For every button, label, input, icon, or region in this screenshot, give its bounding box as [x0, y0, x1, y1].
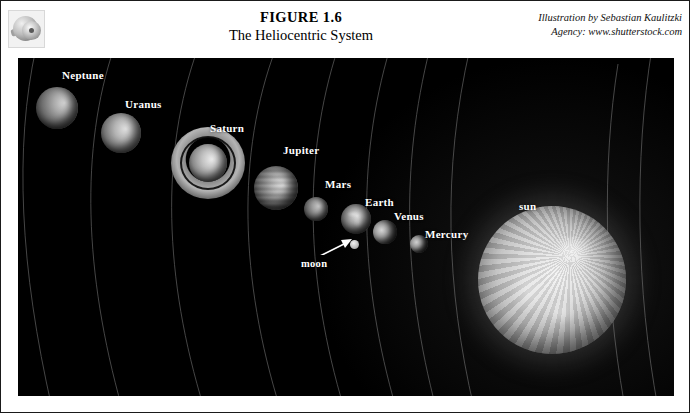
figure-page: FIGURE 1.6 The Heliocentric System Illus…: [0, 0, 690, 413]
star-sun: [478, 206, 626, 354]
orbit-arc-uranus: [91, 58, 122, 396]
orbit-arc-mercury: [451, 58, 474, 396]
credit-agency: Agency: www.shutterstock.com: [538, 25, 682, 39]
planet-saturn-group: [171, 127, 245, 199]
label-neptune: Neptune: [62, 69, 104, 81]
figure-header: FIGURE 1.6 The Heliocentric System Illus…: [1, 1, 690, 56]
label-sun: sun: [519, 200, 536, 212]
label-earth: Earth: [365, 196, 394, 208]
orbit-arc-outer-right-2: [607, 64, 624, 396]
planet-venus: [373, 220, 397, 244]
illustration-panel: Neptune Uranus Saturn Jupiter Mars Earth…: [18, 58, 674, 396]
credit-illustrator: Illustration by Sebastian Kaulitzki: [538, 11, 682, 25]
figure-number: FIGURE 1.6: [151, 9, 451, 26]
disc-thumbnail-icon: [8, 10, 45, 48]
planet-neptune: [36, 87, 78, 129]
orbit-arc-venus: [410, 58, 436, 396]
label-saturn: Saturn: [210, 122, 244, 134]
label-moon: moon: [301, 258, 327, 269]
moon-pointer-arrow: [290, 210, 360, 255]
thumbnail-disc-front: [22, 21, 41, 40]
label-mars: Mars: [325, 178, 351, 190]
label-mercury: Mercury: [425, 228, 468, 240]
planet-jupiter: [254, 166, 298, 210]
label-jupiter: Jupiter: [283, 144, 319, 156]
figure-caption: The Heliocentric System: [151, 26, 451, 45]
label-venus: Venus: [394, 210, 424, 222]
figure-title-block: FIGURE 1.6 The Heliocentric System: [151, 9, 451, 45]
orbit-arc-jupiter: [248, 58, 280, 396]
label-uranus: Uranus: [125, 98, 162, 110]
orbit-arc-saturn: [172, 58, 204, 396]
planet-saturn: [189, 144, 227, 182]
orbit-arc-outer-right: [640, 58, 658, 396]
planet-uranus: [101, 113, 141, 153]
credit-block: Illustration by Sebastian Kaulitzki Agen…: [538, 11, 682, 38]
